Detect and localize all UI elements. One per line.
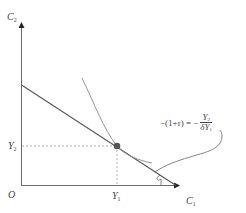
- formula-denominator: δY1: [200, 123, 212, 132]
- origin-label: O: [8, 190, 15, 200]
- tangency-point: [114, 143, 121, 150]
- y-axis-label: C2: [7, 12, 17, 23]
- budget-line: [22, 85, 177, 186]
- slope-formula: −(1+r) = − Y2 δY1: [160, 113, 212, 133]
- y1-tick-label: Y1: [112, 191, 121, 202]
- x-axis-label: C1: [186, 196, 196, 207]
- formula-fraction: Y2 δY1: [200, 113, 212, 133]
- y2-tick-label: Y2: [8, 141, 17, 152]
- formula-lhs: −(1+r) = −: [160, 118, 198, 128]
- consumption-diagram: [0, 0, 246, 213]
- annotation-leader: [155, 130, 222, 172]
